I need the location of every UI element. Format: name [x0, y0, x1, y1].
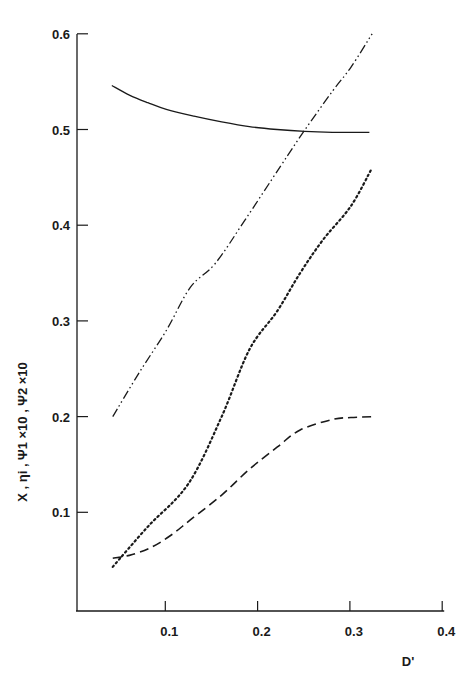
x-tick-label: 0.2	[253, 624, 271, 639]
y-axis-title: X , ηi , Ψ1 ×10 , Ψ2 ×10	[15, 362, 30, 502]
axes	[76, 34, 444, 611]
y-tick-label: 0.1	[52, 505, 70, 520]
y-tick-label: 0.5	[52, 123, 70, 138]
y-tick-label: 0.3	[52, 314, 70, 329]
y-tick-label: 0.6	[52, 27, 70, 42]
series-dash-dot-line	[113, 34, 372, 417]
x-axis-title: D'	[402, 654, 414, 669]
x-tick-label: 0.1	[160, 624, 178, 639]
plot-area	[112, 34, 376, 567]
y-tick-label: 0.2	[52, 410, 70, 425]
x-tick-label: 0.3	[345, 624, 363, 639]
series-dotted-line	[113, 168, 372, 567]
series-dashed-line	[113, 417, 376, 559]
x-tick-label: 0.4	[437, 624, 456, 639]
axis-labels: 0.10.20.30.40.50.60.10.20.30.4D'X , ηi ,…	[15, 27, 456, 669]
y-tick-label: 0.4	[52, 218, 71, 233]
series-solid-line	[112, 85, 370, 132]
line-chart: 0.10.20.30.40.50.60.10.20.30.4D'X , ηi ,…	[0, 0, 470, 679]
